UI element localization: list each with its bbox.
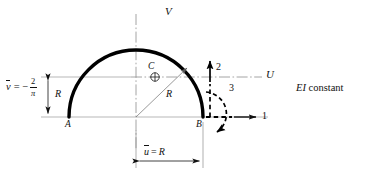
radius-vertical-label: R [55, 89, 61, 99]
point-label-b: B [196, 120, 202, 130]
radius-indicator [136, 68, 187, 117]
radius-arrow [136, 68, 187, 117]
centerlines [131, 14, 262, 150]
vbar-minus-sign: − [23, 82, 29, 93]
ubar-symbol: u [144, 146, 149, 157]
stiffness-note: EI constant [296, 83, 344, 94]
dof-3-moment [206, 92, 226, 132]
stiffness-symbol: EI [296, 82, 306, 93]
vertical-offset-expression: v = − 2 π [6, 77, 37, 97]
ubar-value: R [159, 146, 165, 157]
point-label-a: A [65, 120, 71, 130]
point-label-c: C [148, 62, 154, 72]
curved-moment-arrow-icon [206, 92, 226, 132]
figure-canvas: V U A B C R R 2 3 1 v = − 2 π u=R EI con… [0, 0, 375, 184]
dof-label-3: 3 [229, 83, 234, 93]
stiffness-text: constant [309, 82, 344, 93]
vbar-numerator: 2 [30, 77, 36, 87]
vbar-denominator: π [30, 88, 36, 98]
dof-label-2: 2 [216, 62, 221, 72]
span-dimension-expression: u=R [144, 146, 165, 157]
axis-label-v: V [165, 6, 172, 17]
vbar-symbol: v [6, 81, 11, 93]
vbar-equals: = [14, 82, 20, 93]
circle-plus-icon [150, 72, 159, 81]
dof-label-1: 1 [262, 111, 267, 121]
vbar-fraction: 2 π [30, 77, 37, 97]
axis-label-u: U [266, 69, 274, 80]
radius-label: R [166, 89, 172, 99]
ubar-equals: = [151, 146, 157, 157]
